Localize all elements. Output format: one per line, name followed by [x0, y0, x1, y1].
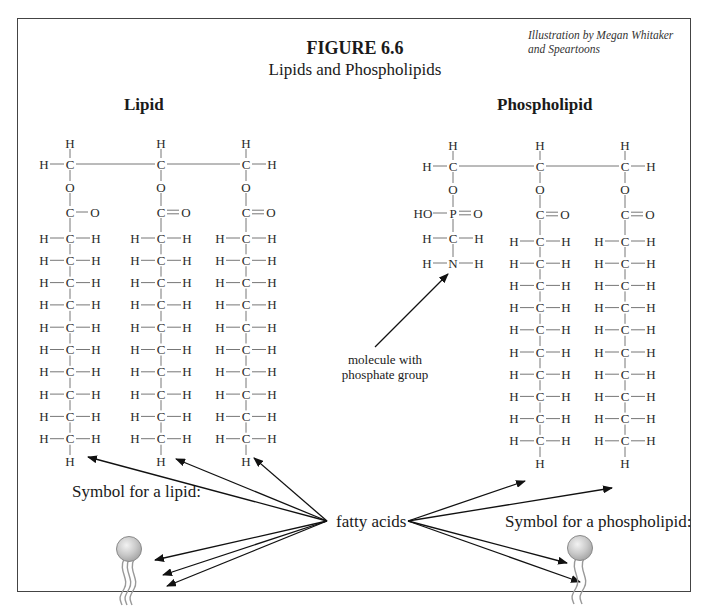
- hydrogen-atom: H: [561, 322, 570, 337]
- hydrogen-atom: H: [267, 409, 276, 424]
- chain-row: HCH: [509, 389, 570, 404]
- hydrogen-atom: H: [561, 411, 570, 426]
- hydrogen-atom: H: [620, 456, 629, 471]
- carbon-atom: C: [66, 431, 75, 446]
- hydrogen-atom: H: [646, 433, 655, 448]
- hydrogen-atom: H: [594, 234, 603, 249]
- hydrogen-atom: H: [215, 364, 224, 379]
- carbon-atom: C: [66, 205, 75, 220]
- carbon-atom: C: [536, 234, 545, 249]
- chain-row: HCH: [39, 297, 100, 312]
- carbon-atom: C: [242, 297, 251, 312]
- hydrogen-atom: H: [267, 387, 276, 402]
- chain-row: HCH: [215, 342, 276, 357]
- hydrogen-atom: H: [130, 320, 139, 335]
- carbon-atom: C: [621, 234, 630, 249]
- chain-row: HCH: [594, 389, 655, 404]
- carbon-atom: C: [621, 433, 630, 448]
- hydrogen-atom: H: [594, 256, 603, 271]
- carbon-atom: C: [157, 364, 166, 379]
- chain-row: HCH: [594, 234, 655, 249]
- hydrogen-atom: H: [594, 300, 603, 315]
- oxygen-atom: O: [156, 180, 165, 195]
- carbon-atom: C: [536, 207, 545, 222]
- arrow-to-lipid-symbol-tail-3: [167, 521, 327, 586]
- hydrogen-atom: H: [215, 231, 224, 246]
- carbon-atom: C: [536, 322, 545, 337]
- hydrogen-atom: H: [594, 345, 603, 360]
- chain-row: HCH: [130, 342, 191, 357]
- carbon-atom: C: [621, 322, 630, 337]
- hydrogen-atom: H: [91, 342, 100, 357]
- carbon-atom: C: [242, 320, 251, 335]
- hydrogen-atom: H: [215, 275, 224, 290]
- hydrogen-atom: H: [267, 364, 276, 379]
- hydrogen-atom: H: [594, 389, 603, 404]
- hydrogen-atom: H: [646, 389, 655, 404]
- chain-row: HCH: [215, 409, 276, 424]
- hydrogen-atom: H: [91, 409, 100, 424]
- nitrogen-atom: N: [448, 256, 458, 271]
- chain-row: HCH: [509, 322, 570, 337]
- hydrogen-atom: H: [422, 231, 431, 246]
- hydrogen-atom: H: [65, 454, 74, 469]
- hydrogen-atom: H: [594, 278, 603, 293]
- hydrogen-atom: H: [646, 367, 655, 382]
- carbon-atom: C: [66, 231, 75, 246]
- hydrogen-atom: H: [130, 275, 139, 290]
- hydrogen-atom: H: [130, 387, 139, 402]
- chain-row: HCH: [594, 300, 655, 315]
- hydrogen-atom: H: [448, 138, 457, 153]
- chain-row: HCH: [594, 278, 655, 293]
- hydrogen-atom: H: [130, 297, 139, 312]
- chain-row: HCH: [509, 234, 570, 249]
- hydrogen-atom: H: [182, 342, 191, 357]
- hydrogen-atom: H: [39, 253, 48, 268]
- carbon-atom: C: [621, 367, 630, 382]
- carbon-atom: C: [242, 275, 251, 290]
- carbon-atom: C: [157, 342, 166, 357]
- chain-row: HCH: [39, 409, 100, 424]
- chain-row: HCH: [130, 231, 191, 246]
- chain-row: HCH: [39, 231, 100, 246]
- lipid-molecule: HCHOHCOHCHOCOHCHHCHHCHHCHHCHHCHHCHHCHHCH…: [39, 136, 276, 469]
- carbon-atom: C: [157, 205, 166, 220]
- hydrogen-atom: H: [215, 342, 224, 357]
- hydrogen-atom: H: [182, 253, 191, 268]
- hydrogen-atom: H: [130, 231, 139, 246]
- hydrogen-atom: H: [65, 136, 74, 151]
- chain-row: HCH: [509, 433, 570, 448]
- carbon-atom: C: [157, 387, 166, 402]
- hydrogen-atom: H: [182, 409, 191, 424]
- phosphorus-atom: P: [449, 206, 456, 221]
- oxygen-atom: O: [241, 180, 250, 195]
- carbon-atom: C: [621, 159, 630, 174]
- head-icon: [117, 537, 142, 562]
- hydrogen-atom: H: [646, 322, 655, 337]
- carbon-atom: C: [66, 409, 75, 424]
- hydrogen-atom: H: [509, 278, 518, 293]
- oxygen-atom: O: [473, 206, 482, 221]
- chain-row: HCH: [215, 275, 276, 290]
- hydrogen-atom: H: [561, 256, 570, 271]
- carbon-atom: C: [242, 342, 251, 357]
- phospholipid-molecule: HCHOHCOHCHOHOPOHCHHNHCOHCHHCHHCHHCHHCHHC…: [414, 138, 656, 471]
- carbon-atom: C: [242, 205, 251, 220]
- hydrogen-atom: H: [509, 322, 518, 337]
- chain-row: HCH: [39, 364, 100, 379]
- arrow-to-phospholipid-chain-2: [408, 488, 612, 521]
- hydrogen-atom: H: [646, 159, 655, 174]
- carbon-atom: C: [66, 342, 75, 357]
- hydrogen-atom: H: [130, 409, 139, 424]
- chain-row: HCH: [594, 411, 655, 426]
- carbon-atom: C: [621, 389, 630, 404]
- chain-row: HCH: [215, 387, 276, 402]
- oxygen-atom: O: [181, 205, 190, 220]
- hydrogen-atom: H: [646, 234, 655, 249]
- lipid-symbol-icon: [117, 537, 142, 606]
- hydrogen-atom: H: [91, 320, 100, 335]
- hydrogen-atom: H: [182, 320, 191, 335]
- carbon-atom: C: [621, 207, 630, 222]
- hydrogen-atom: H: [561, 389, 570, 404]
- chain-row: HCH: [130, 320, 191, 335]
